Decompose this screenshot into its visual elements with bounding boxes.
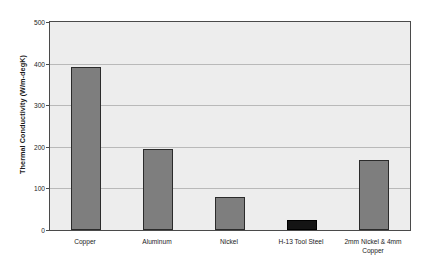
y-tick-label: 200 [19,143,45,150]
bar [215,197,245,230]
bar [359,160,389,230]
plot-area [49,21,411,231]
bar [287,220,317,230]
gridline [50,147,410,148]
bar [71,67,101,230]
x-tick-label: 2mm Nickel & 4mmCopper [330,237,416,255]
x-tick-label-line: Copper [330,246,416,255]
gridline [50,105,410,106]
y-tick-label: 0 [19,227,45,234]
gridline [50,188,410,189]
bar-chart-figure: Thermal Conductivity (W/m-degK) 01002003… [0,0,427,280]
x-tick-label-line: 2mm Nickel & 4mm [330,237,416,246]
y-tick-label: 400 [19,60,45,67]
y-tick-label: 300 [19,102,45,109]
y-tick-label: 100 [19,185,45,192]
y-tick-label: 500 [19,19,45,26]
gridline [50,64,410,65]
bar [143,149,173,230]
